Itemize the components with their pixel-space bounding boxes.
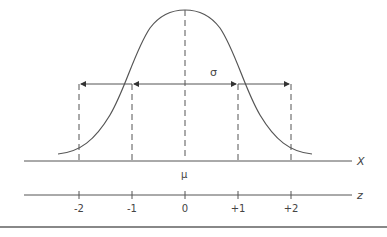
z-tick-label: +1 xyxy=(231,203,246,214)
sigma-label: σ xyxy=(210,66,217,79)
sd-guide-lines xyxy=(79,10,291,160)
normal-distribution-diagram: σ X μ z -2 -1 0 +1 +2 xyxy=(0,0,387,237)
mean-label: μ xyxy=(181,169,188,180)
z-tick-label: -1 xyxy=(127,203,137,214)
z-tick-label: 0 xyxy=(182,203,188,214)
bottom-rule xyxy=(0,226,387,228)
z-tick-label: -2 xyxy=(74,203,84,214)
x-axis-label: X xyxy=(356,155,365,168)
z-axis-label: z xyxy=(356,189,363,202)
z-tick-label: +2 xyxy=(284,203,299,214)
